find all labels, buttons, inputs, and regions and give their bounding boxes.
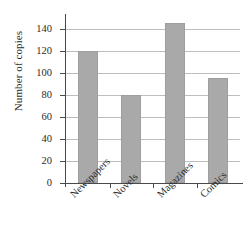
y-tick-mark (60, 183, 66, 184)
x-tick-mark (110, 183, 111, 188)
bar (165, 23, 185, 183)
bar-chart: Number of copies 020406080100120140 News… (0, 0, 251, 251)
y-tick-label: 40 (0, 134, 60, 144)
y-tick-label: 100 (0, 68, 60, 78)
bar (121, 95, 141, 183)
x-tick-mark (197, 183, 198, 188)
y-tick-label: 80 (0, 90, 60, 100)
y-tick-label: 20 (0, 156, 60, 166)
bar (208, 78, 228, 183)
y-tick-label: 120 (0, 46, 60, 56)
y-tick-label: 140 (0, 24, 60, 34)
y-tick-label: 0 (0, 178, 60, 188)
y-tick-label: 60 (0, 112, 60, 122)
x-tick-mark (153, 183, 154, 188)
plot-area (66, 18, 240, 183)
